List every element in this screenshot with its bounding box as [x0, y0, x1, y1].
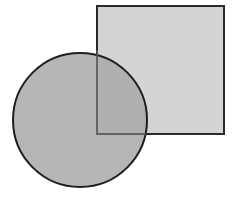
diagram-canvas	[0, 0, 236, 200]
circle-shape	[13, 53, 147, 187]
